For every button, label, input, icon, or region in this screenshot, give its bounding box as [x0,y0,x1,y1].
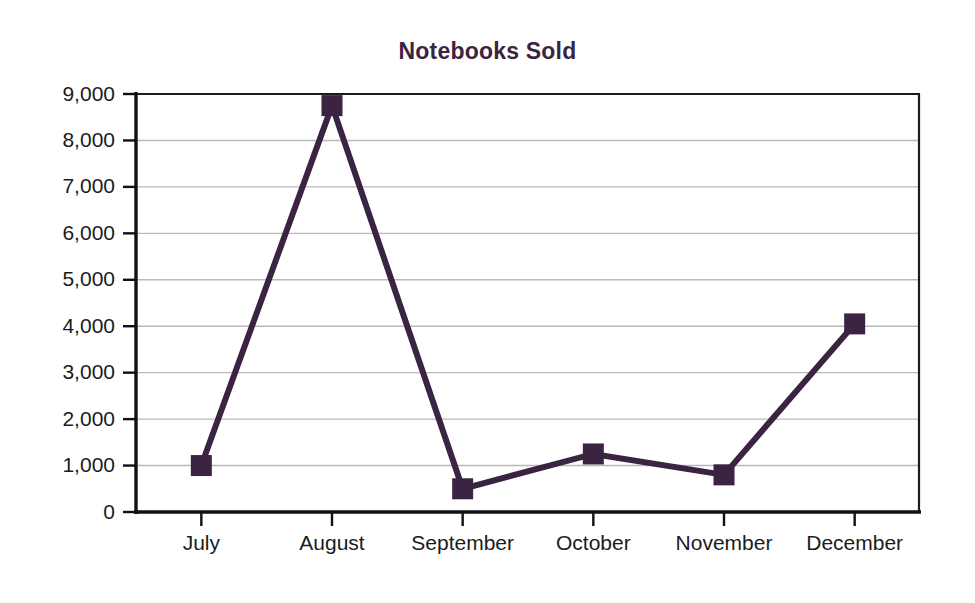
x-axis-tick-label: September [411,531,514,554]
plot-background [136,94,920,512]
data-point-marker [452,478,473,499]
line-chart-plot: 01,0002,0003,0004,0005,0006,0007,0008,00… [0,0,975,603]
y-axis-tick-label: 1,000 [62,453,115,476]
y-axis-tick-label: 8,000 [62,128,115,151]
y-axis-tick-label: 4,000 [62,314,115,337]
data-point-marker [322,95,343,116]
x-axis-tick-label: December [806,531,903,554]
data-point-marker [714,464,735,485]
y-axis-tick-label: 0 [103,500,115,523]
x-axis-tick-label: July [183,531,221,554]
data-point-marker [191,455,212,476]
x-axis-tick-label: October [556,531,631,554]
y-axis-tick-label: 7,000 [62,174,115,197]
y-axis-tick-label: 6,000 [62,221,115,244]
y-axis-ticks-group: 01,0002,0003,0004,0005,0006,0007,0008,00… [62,82,136,523]
data-point-marker [583,443,604,464]
x-axis-tick-label: November [676,531,773,554]
x-axis-ticks-group: JulyAugustSeptemberOctoberNovemberDecemb… [183,512,903,554]
chart-container: Notebooks Sold 01,0002,0003,0004,0005,00… [0,0,975,603]
x-axis-tick-label: August [299,531,365,554]
y-axis-tick-label: 9,000 [62,82,115,105]
y-axis-tick-label: 5,000 [62,267,115,290]
y-axis-tick-label: 2,000 [62,407,115,430]
data-point-marker [844,313,865,334]
y-axis-tick-label: 3,000 [62,360,115,383]
